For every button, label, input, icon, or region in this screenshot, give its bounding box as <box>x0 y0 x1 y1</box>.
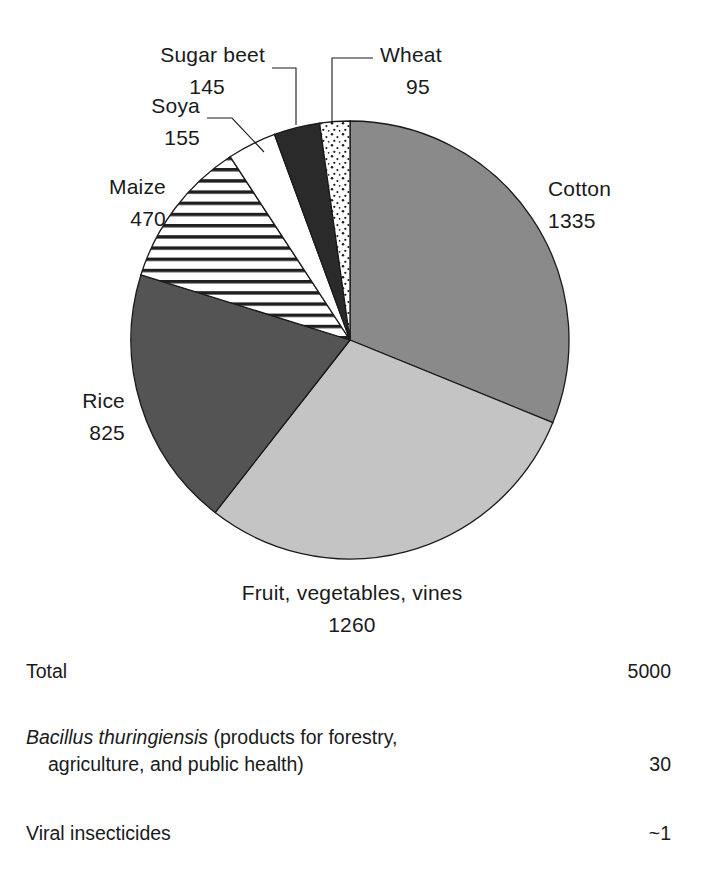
table-row: Total 5000 <box>0 658 709 685</box>
slice-label-sugar-beet: Sugar beet <box>160 43 265 66</box>
pie-slices-group <box>131 121 569 559</box>
species-name: Bacillus thuringiensis <box>26 726 208 748</box>
slice-label-cotton: Cotton <box>548 177 611 200</box>
slice-value-wheat: 95 <box>406 75 430 98</box>
table-row: Viral insecticides ~1 <box>0 820 709 847</box>
slice-value-sugar-beet: 145 <box>189 75 225 98</box>
slice-label-rice: Rice <box>82 389 125 412</box>
pie-chart-svg: Cotton1335Fruit, vegetables, vines1260Ri… <box>0 0 709 660</box>
slice-value-maize: 470 <box>130 207 166 230</box>
leader-line-wheat <box>332 58 373 123</box>
row-value-bacillus-thuringiensis: 30 <box>601 751 671 778</box>
row-label-total: Total <box>26 658 67 685</box>
pie-chart-figure: Cotton1335Fruit, vegetables, vines1260Ri… <box>0 0 709 889</box>
summary-table: Total 5000 Bacillus thuringiensis (produ… <box>0 648 709 847</box>
leader-line-sugar-beet <box>272 68 296 125</box>
slice-label-maize: Maize <box>109 175 166 198</box>
table-row: Bacillus thuringiensis (products for for… <box>0 724 709 778</box>
slice-value-cotton: 1335 <box>548 209 596 232</box>
species-qualifier-line2: agriculture, and public health) <box>26 751 397 778</box>
row-value-viral-insecticides: ~1 <box>601 820 671 847</box>
slice-value-rice: 825 <box>89 421 125 444</box>
species-qualifier: (products for forestry, <box>208 726 397 748</box>
slice-value-fruit-vegetables-vines: 1260 <box>328 613 376 636</box>
slice-label-fruit-vegetables-vines: Fruit, vegetables, vines <box>242 581 463 604</box>
slice-value-soya: 155 <box>164 126 200 149</box>
row-value-total: 5000 <box>601 658 671 685</box>
slice-label-wheat: Wheat <box>380 43 442 66</box>
row-label-bacillus-thuringiensis: Bacillus thuringiensis (products for for… <box>26 724 397 778</box>
row-label-viral-insecticides: Viral insecticides <box>26 820 171 847</box>
